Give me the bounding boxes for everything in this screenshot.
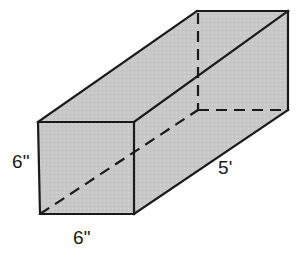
- prism-front-face: [38, 122, 134, 214]
- prism-drawing: [0, 0, 306, 257]
- dimension-label-width: 6": [73, 228, 91, 247]
- dimension-label-length: 5': [218, 158, 233, 177]
- dimension-label-height: 6": [12, 152, 30, 171]
- prism-diagram: 6" 6" 5': [0, 0, 306, 257]
